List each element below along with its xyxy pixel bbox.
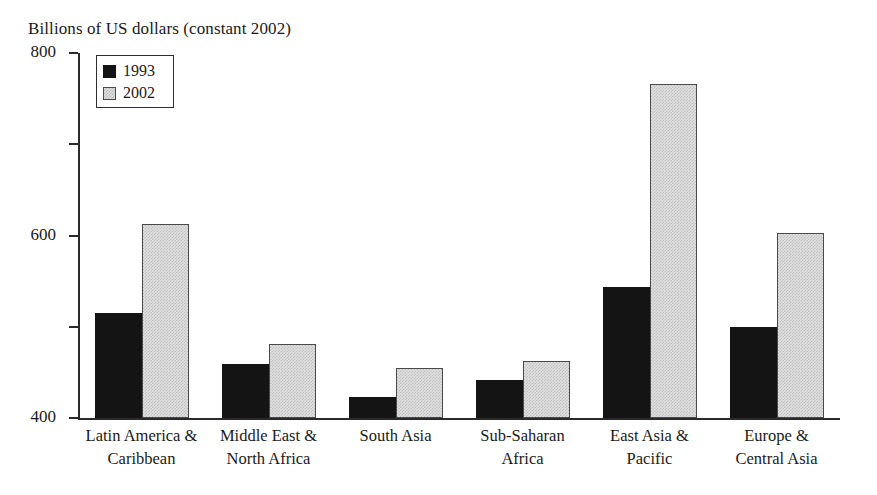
legend: 1993 2002 bbox=[96, 55, 174, 108]
y-axis-tick-label: 600 bbox=[31, 226, 57, 243]
bars-layer bbox=[78, 53, 840, 418]
category-label-line: South Asia bbox=[332, 424, 459, 447]
x-axis-line bbox=[78, 418, 840, 420]
bar-1993-2 bbox=[222, 364, 269, 418]
y-axis-tick: 800 bbox=[69, 52, 78, 54]
category-label-line: Sub-Saharan bbox=[459, 424, 586, 447]
bar-1993-5 bbox=[603, 287, 650, 418]
legend-label-1993: 1993 bbox=[123, 63, 155, 79]
bar-2002-1 bbox=[142, 224, 189, 418]
category-label-line: Europe & bbox=[713, 424, 840, 447]
category-label-line: North Africa bbox=[205, 447, 332, 470]
category-label-3: South Asia bbox=[332, 424, 459, 447]
y-axis-tick: 0 bbox=[69, 417, 78, 419]
y-axis-tick-label: 400 bbox=[31, 408, 57, 425]
category-label-1: Latin America &Caribbean bbox=[78, 424, 205, 470]
bar-1993-4 bbox=[476, 380, 523, 418]
category-label-line: East Asia & bbox=[586, 424, 713, 447]
bar-2002-5 bbox=[650, 84, 697, 418]
bar-2002-6 bbox=[777, 233, 824, 418]
y-axis-tick-label: 800 bbox=[31, 43, 57, 60]
legend-label-2002: 2002 bbox=[123, 85, 155, 101]
chart-title: Billions of US dollars (constant 2002) bbox=[28, 18, 291, 40]
bar-1993-3 bbox=[349, 397, 396, 418]
bar-2002-4 bbox=[523, 361, 570, 418]
category-label-4: Sub-SaharanAfrica bbox=[459, 424, 586, 470]
bar-2002-3 bbox=[396, 368, 443, 418]
bar-2002-2 bbox=[269, 344, 316, 418]
bar-chart: Billions of US dollars (constant 2002) 0… bbox=[0, 0, 877, 495]
category-label-line: Africa bbox=[459, 447, 586, 470]
legend-item-1993: 1993 bbox=[103, 60, 167, 82]
category-axis-labels: Latin America &CaribbeanMiddle East &Nor… bbox=[78, 424, 840, 486]
category-label-line: Central Asia bbox=[713, 447, 840, 470]
legend-swatch-1993-icon bbox=[103, 65, 116, 78]
bar-1993-6 bbox=[730, 327, 777, 418]
y-axis-tick: 400 bbox=[69, 235, 78, 237]
plot-area: 0200400600800 bbox=[78, 53, 840, 418]
category-label-line: Pacific bbox=[586, 447, 713, 470]
category-label-5: East Asia &Pacific bbox=[586, 424, 713, 470]
category-label-line: Middle East & bbox=[205, 424, 332, 447]
bar-1993-1 bbox=[95, 313, 142, 418]
y-axis-tick: 200 bbox=[69, 326, 78, 328]
legend-item-2002: 2002 bbox=[103, 82, 167, 104]
legend-swatch-2002-icon bbox=[103, 87, 116, 100]
category-label-line: Caribbean bbox=[78, 447, 205, 470]
category-label-line: Latin America & bbox=[78, 424, 205, 447]
category-label-2: Middle East &North Africa bbox=[205, 424, 332, 470]
y-axis-tick: 600 bbox=[69, 143, 78, 145]
category-label-6: Europe &Central Asia bbox=[713, 424, 840, 470]
